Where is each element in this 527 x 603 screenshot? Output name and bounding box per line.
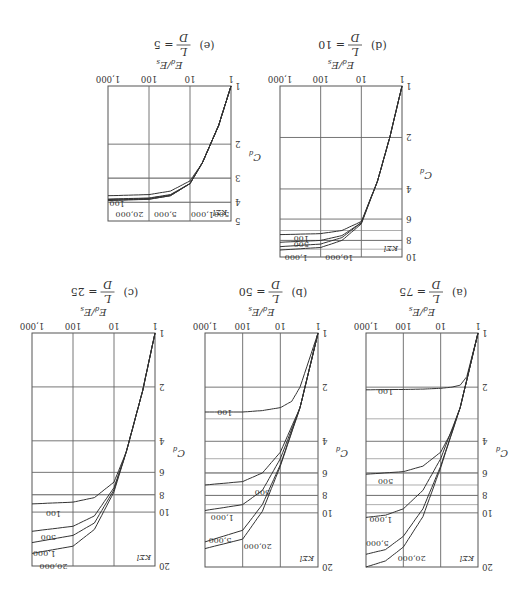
y-tick-label: 10 — [159, 507, 170, 517]
caption-ld-value: = 10 — [318, 38, 345, 51]
upright-group: 1101001,000124681020CdKΣl1005001,0005,00… — [20, 31, 508, 572]
fraction-denominator: D — [103, 278, 113, 291]
y-tick-label: 6 — [322, 468, 327, 478]
curve-kl-20000 — [32, 333, 155, 553]
y-tick-label: 2 — [159, 382, 164, 392]
y-tick-label: 4 — [235, 197, 240, 207]
curve-label: 5,000 — [209, 536, 232, 545]
caption-ld-value: = 50 — [239, 285, 266, 298]
figure-canvas: 1101001,000124681020CdKΣl1005001,0005,00… — [0, 0, 527, 603]
curve-kl-100 — [32, 333, 155, 504]
y-tick-label: 8 — [482, 490, 487, 500]
curve-kl-20000 — [366, 333, 478, 567]
fraction-denominator: D — [179, 31, 189, 44]
curve-label: 500 — [214, 210, 229, 219]
fraction-denominator: D — [271, 278, 281, 291]
y-tick-label: 4 — [482, 436, 487, 446]
x-tick-label: 10 — [435, 321, 446, 331]
caption-ld-value: = 75 — [399, 285, 426, 298]
y-axis-label: Cd — [335, 445, 348, 459]
chart-a-ld75: 1101001,000124681020CdKΣl1005001,0005,00… — [354, 278, 508, 572]
x-tick-label: 1,000 — [96, 74, 120, 84]
x-tick-label: 1 — [228, 74, 233, 84]
x-axis-label: Ed/Es — [248, 305, 275, 318]
curve-kl-1000 — [366, 333, 478, 517]
x-axis-label: Ed/Es — [328, 58, 355, 71]
y-tick-label: 4 — [159, 436, 164, 446]
y-tick-label: 6 — [159, 467, 164, 477]
caption-letter: (a) — [452, 286, 467, 299]
x-tick-label: 100 — [395, 321, 411, 331]
curve-kl-100 — [108, 86, 231, 196]
x-tick-label: 1,000 — [20, 321, 44, 331]
x-tick-label: 10 — [275, 321, 286, 331]
fraction-numerator: L — [432, 292, 440, 305]
curve-kl-500 — [108, 86, 231, 199]
legend-title: KΣl — [459, 554, 475, 563]
y-tick-label: 2 — [322, 382, 327, 392]
curve-kl-100 — [366, 333, 478, 390]
x-tick-label: 10 — [356, 74, 367, 84]
x-tick-label: 1 — [475, 321, 480, 331]
x-tick-label: 100 — [235, 321, 251, 331]
y-tick-label: 3 — [235, 173, 240, 183]
y-tick-label: 5 — [235, 216, 240, 226]
y-tick-label: 1 — [235, 81, 240, 91]
caption-letter: (d) — [371, 39, 387, 52]
curve-label: 100 — [46, 509, 61, 518]
y-tick-label: 8 — [322, 490, 327, 500]
y-tick-label: 20 — [322, 562, 333, 572]
curve-label: 1,000 — [191, 210, 214, 219]
curve-label: 500 — [255, 488, 270, 497]
curve-kl-5000 — [205, 333, 318, 542]
x-axis-label: Ed/Es — [156, 58, 183, 71]
fraction-numerator: L — [272, 292, 280, 305]
chart-c-ld25: 1101001,000124681020CdKΣl1005001,00020,0… — [20, 278, 185, 571]
y-tick-label: 10 — [482, 508, 493, 518]
curve-label: 5,000 — [366, 539, 389, 548]
plot-frame — [32, 333, 155, 566]
y-axis-label: Cd — [248, 149, 261, 163]
rotated-chart-figure: 1101001,000124681020CdKΣl1005001,0005,00… — [0, 0, 527, 603]
plot-frame — [205, 333, 318, 567]
curve-label: 1,000 — [211, 513, 234, 522]
curve-label: 20,000 — [398, 554, 426, 563]
curve-label: 20,000 — [115, 210, 143, 219]
fraction-numerator: L — [351, 45, 359, 58]
y-tick-label: 2 — [406, 132, 411, 142]
curve-kl-1000 — [108, 86, 231, 200]
x-tick-label: 10 — [185, 74, 196, 84]
fraction-denominator: D — [350, 31, 360, 44]
curve-label: 100 — [109, 199, 124, 208]
chart-e-ld5: 1101001,00012345CdKΣl1005001,0005,00020,… — [96, 31, 261, 226]
y-tick-label: 1 — [406, 81, 411, 91]
plot-frame — [366, 333, 478, 567]
y-tick-label: 2 — [235, 139, 240, 149]
legend-title: KΣl — [299, 554, 315, 563]
y-axis-label: Cd — [172, 445, 185, 459]
y-axis-label: Cd — [419, 167, 432, 181]
chart-b-ld50: 1101001,000124681020CdKΣl1005001,0005,00… — [193, 278, 348, 572]
curve-label: 1,000 — [285, 253, 308, 262]
curve-label: 500 — [294, 240, 309, 249]
plot-frame — [280, 86, 402, 257]
y-tick-label: 1 — [322, 328, 327, 338]
plot-frame — [108, 86, 231, 221]
fraction-denominator: D — [431, 278, 441, 291]
y-tick-label: 6 — [406, 214, 411, 224]
curve-label: 1,000 — [33, 549, 56, 558]
y-tick-label: 4 — [322, 436, 327, 446]
caption-letter: (b) — [292, 286, 308, 299]
curve-label: 5,000 — [154, 210, 177, 219]
y-tick-label: 20 — [482, 562, 493, 572]
x-tick-label: 1 — [315, 321, 320, 331]
curve-label: 100 — [378, 387, 393, 396]
curve-kl-100 — [205, 333, 318, 412]
x-tick-label: 1,000 — [193, 321, 217, 331]
y-tick-label: 20 — [159, 561, 170, 571]
x-tick-label: 1,000 — [268, 74, 292, 84]
fraction-numerator: L — [180, 45, 188, 58]
x-tick-label: 1 — [152, 321, 157, 331]
y-tick-label: 10 — [322, 508, 333, 518]
y-tick-label: 1 — [482, 328, 487, 338]
